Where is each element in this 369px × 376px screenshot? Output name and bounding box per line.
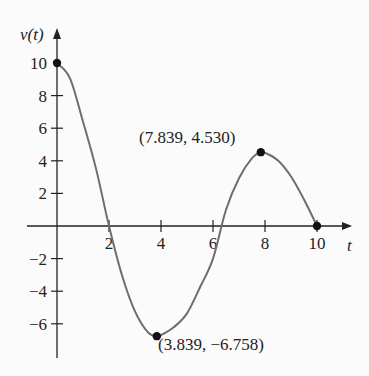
y-tick-label: −6 <box>29 315 47 334</box>
y-tick-label: −4 <box>29 282 48 301</box>
marked-point <box>53 59 61 67</box>
y-tick-label: −2 <box>29 250 47 269</box>
x-tick-label: 10 <box>309 234 326 253</box>
x-tick-label: 8 <box>261 234 270 253</box>
y-tick-label: 6 <box>39 119 48 138</box>
x-axis-label: t <box>347 236 353 255</box>
y-ticks: −6−4−2246810 <box>29 54 63 334</box>
marked-points <box>53 59 321 341</box>
min-point-label: (3.839, −6.758) <box>158 335 264 354</box>
y-tick-label: 8 <box>39 87 48 106</box>
y-axis-arrow-icon <box>53 28 61 39</box>
y-axis-label: v(t) <box>20 25 44 44</box>
curve-v-of-t <box>57 63 317 336</box>
marked-point <box>257 148 265 156</box>
chart-svg: 246810 −6−4−2246810 v(t) t (7.839, 4.530… <box>0 0 369 376</box>
y-tick-label: 4 <box>39 152 48 171</box>
x-axis-arrow-icon <box>342 222 352 230</box>
marked-point <box>313 222 321 230</box>
y-tick-label: 2 <box>39 184 48 203</box>
max-point-label: (7.839, 4.530) <box>139 128 235 147</box>
y-tick-label: 10 <box>30 54 47 73</box>
x-tick-label: 4 <box>157 234 166 253</box>
